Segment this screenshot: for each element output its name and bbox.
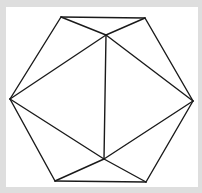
edge-left-to-inner-top	[10, 35, 106, 99]
edge-left-to-bottom-left	[10, 99, 55, 181]
edge-top-right-to-inner-top	[106, 18, 145, 35]
edge-left-to-inner-bottom	[10, 99, 104, 159]
edge-top-left-to-top-right	[61, 17, 145, 18]
edge-bottom-right-to-inner-bottom	[104, 159, 146, 182]
edge-bottom-left-to-inner-bottom	[55, 159, 104, 181]
edge-top-right-to-right	[145, 18, 193, 101]
hexagon-diagram	[0, 0, 202, 193]
edge-inner-top-to-inner-bottom	[104, 35, 106, 159]
edge-right-to-inner-bottom	[104, 101, 193, 159]
edge-top-left-to-left	[10, 17, 61, 99]
figure-frame	[0, 0, 202, 193]
edge-right-to-inner-top	[106, 35, 193, 101]
edge-right-to-bottom-right	[146, 101, 193, 182]
edge-top-left-to-inner-top	[61, 17, 106, 35]
edge-bottom-left-to-bottom-right	[55, 181, 146, 182]
